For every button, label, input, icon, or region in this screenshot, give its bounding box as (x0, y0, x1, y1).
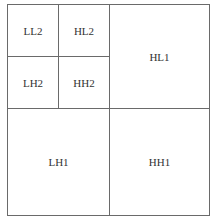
subband-hl1: HL1 (109, 4, 210, 109)
subband-hh2: HH2 (58, 56, 110, 109)
label-ll2: LL2 (24, 25, 43, 37)
label-lh2: LH2 (23, 77, 43, 89)
subband-lh1: LH1 (7, 108, 110, 216)
label-hl1: HL1 (149, 51, 169, 63)
label-hh1: HH1 (149, 156, 170, 168)
label-hl2: HL2 (74, 25, 94, 37)
subband-hl2: HL2 (58, 4, 110, 57)
label-hh2: HH2 (73, 77, 94, 89)
subband-ll2: LL2 (7, 4, 59, 57)
subband-hh1: HH1 (109, 108, 210, 216)
subband-lh2: LH2 (7, 56, 59, 109)
label-lh1: LH1 (48, 156, 68, 168)
